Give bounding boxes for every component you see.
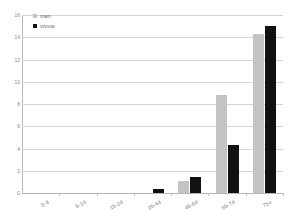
legend-item-vrouw: vrouw — [33, 22, 55, 30]
chart-legend: man vrouw — [33, 12, 55, 32]
bar-vrouw-45-64 — [190, 177, 201, 193]
gridline — [22, 37, 283, 38]
bar-vrouw-65-74 — [228, 145, 239, 193]
y-axis-tick-label: 0 — [2, 190, 20, 196]
legend-item-man: man — [33, 12, 55, 20]
gridline — [22, 171, 283, 172]
y-axis-tick-label: 8 — [2, 101, 20, 107]
x-axis-tick-label-45-64: 45-64 — [175, 199, 199, 215]
x-axis-tick-mark — [246, 193, 247, 196]
legend-label-man: man — [40, 13, 51, 19]
x-axis-tick-label-75+: 75+ — [249, 199, 273, 215]
y-axis-tick-label: 10 — [2, 79, 20, 85]
y-axis-tick-label: 4 — [2, 146, 20, 152]
x-axis-tick-label-65-74: 65-74 — [212, 199, 236, 215]
bar-man-65-74 — [216, 95, 227, 193]
x-axis-tick-labels: 0-45-1415-2425-4445-6465-7475+ — [22, 193, 283, 215]
x-axis-tick-mark — [59, 193, 60, 196]
y-axis-tick-label: 16 — [2, 12, 20, 18]
x-axis-tick-label-0-4: 0-4 — [25, 199, 49, 215]
gridline — [22, 82, 283, 83]
gridline — [22, 15, 283, 16]
x-axis-tick-mark — [171, 193, 172, 196]
y-axis-tick-labels: 0246810121416 — [0, 0, 20, 215]
legend-swatch-vrouw-icon — [33, 24, 37, 28]
x-axis-tick-mark — [97, 193, 98, 196]
gridline — [22, 126, 283, 127]
bar-man-75+ — [253, 34, 264, 193]
y-axis-tick-label: 6 — [2, 123, 20, 129]
gridline — [22, 60, 283, 61]
gridline — [22, 149, 283, 150]
bar-vrouw-75+ — [265, 26, 276, 193]
x-axis-tick-label-25-44: 25-44 — [137, 199, 161, 215]
y-axis-tick-label: 12 — [2, 57, 20, 63]
x-axis-tick-label-15-24: 15-24 — [100, 199, 124, 215]
bar-man-45-64 — [178, 181, 189, 193]
plot-area — [22, 15, 283, 193]
gridline — [22, 104, 283, 105]
legend-swatch-man-icon — [33, 14, 37, 18]
x-axis-tick-mark — [283, 193, 284, 196]
bar-chart: 0246810121416 0-45-1415-2425-4445-6465-7… — [0, 0, 291, 215]
x-axis-tick-label-5-14: 5-14 — [63, 199, 87, 215]
legend-label-vrouw: vrouw — [40, 23, 55, 29]
x-axis-tick-mark — [208, 193, 209, 196]
y-axis-tick-label: 2 — [2, 168, 20, 174]
x-axis-tick-mark — [134, 193, 135, 196]
y-axis-tick-label: 14 — [2, 34, 20, 40]
